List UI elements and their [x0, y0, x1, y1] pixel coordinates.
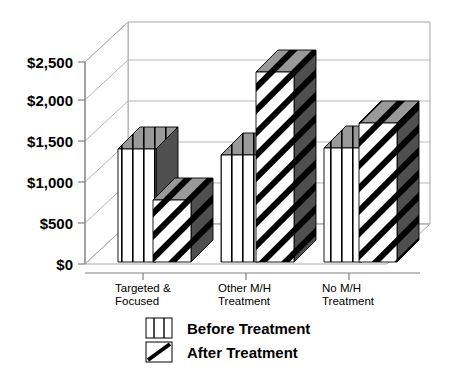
legend: Before Treatment After Treatment	[146, 318, 310, 362]
x-axis	[85, 273, 420, 280]
y-tick-label-1500: $1,500	[27, 133, 73, 150]
x-tick-label-no-mh-line1: No M/H	[322, 282, 361, 294]
x-tick-label-targeted-focused-line1: Targeted &	[115, 282, 171, 294]
legend-label-before-treatment: Before Treatment	[187, 320, 310, 337]
y-axis	[78, 62, 85, 264]
legend-item-after-treatment[interactable]: After Treatment	[146, 342, 298, 362]
bar-chart-3d: $2,500 $2,000 $1,500 $1,000 $500 $0	[0, 0, 456, 385]
chart-container: $2,500 $2,000 $1,500 $1,000 $500 $0	[0, 0, 456, 385]
bar-after-no-mh-treatment[interactable]	[359, 101, 419, 262]
x-tick-label-other-mh-line1: Other M/H	[218, 282, 271, 294]
y-axis-tick-labels: $2,500 $2,000 $1,500 $1,000 $500 $0	[27, 54, 73, 273]
legend-item-before-treatment[interactable]: Before Treatment	[146, 318, 310, 338]
x-tick-label-other-mh-line2: Treatment	[218, 295, 271, 307]
y-tick-label-1000: $1,000	[27, 174, 73, 191]
y-tick-label-2000: $2,000	[27, 92, 73, 109]
x-tick-label-targeted-focused-line2: Focused	[115, 295, 159, 307]
x-axis-category-labels: Targeted & Focused Other M/H Treatment N…	[115, 282, 375, 307]
y-tick-label-2500: $2,500	[27, 54, 73, 71]
y-tick-label-500: $500	[40, 215, 73, 232]
x-tick-label-no-mh-line2: Treatment	[322, 295, 375, 307]
y-tick-label-0: $0	[56, 256, 73, 273]
bar-after-targeted-focused[interactable]	[153, 178, 213, 262]
legend-label-after-treatment: After Treatment	[187, 344, 298, 361]
bar-after-other-mh-treatment[interactable]	[256, 50, 316, 262]
